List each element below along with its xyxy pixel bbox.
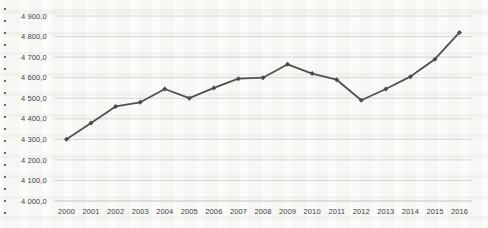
y-axis-tick-label: 4 900,0	[21, 12, 47, 21]
x-axis-tick-label: 2010	[304, 207, 321, 216]
line-chart: 4 900,04 800,04 700,04 600,04 500,04 400…	[0, 0, 488, 228]
x-axis-tick-label: 2011	[328, 207, 345, 216]
x-axis-tick-label: 2005	[181, 207, 198, 216]
x-axis-tick-label: 2013	[377, 207, 394, 216]
x-axis-tick-label: 2003	[132, 207, 149, 216]
line-chart-figure: 4 900,04 800,04 700,04 600,04 500,04 400…	[0, 0, 488, 228]
data-point-marker	[187, 96, 192, 101]
scanned-document-page: 4 900,04 800,04 700,04 600,04 500,04 400…	[0, 0, 488, 228]
x-axis-tick-label: 2004	[156, 207, 173, 216]
x-axis-tick-label: 2002	[107, 207, 124, 216]
x-axis-tick-label: 2008	[254, 207, 271, 216]
y-axis-tick-label: 4 300,0	[21, 135, 47, 144]
x-axis-tick-label: 2009	[279, 207, 296, 216]
y-axis-tick-label: 4 000,0	[21, 197, 47, 206]
y-axis-tick-label: 4 500,0	[21, 94, 47, 103]
x-axis-tick-label: 2014	[402, 207, 419, 216]
x-axis-tick-label: 2006	[205, 207, 222, 216]
y-axis-tick-label: 4 400,0	[21, 114, 47, 123]
x-axis-tick-label: 2001	[83, 207, 100, 216]
y-axis-tick-label: 4 100,0	[21, 176, 47, 185]
x-axis-tick-label: 2016	[451, 207, 468, 216]
data-point-marker	[211, 85, 216, 90]
x-axis-tick-label: 2015	[426, 207, 443, 216]
x-axis-tick-label: 2007	[230, 207, 247, 216]
data-series-line	[67, 32, 460, 139]
data-point-marker	[310, 71, 315, 76]
x-axis-tick-label: 2000	[58, 207, 75, 216]
x-axis-tick-label: 2012	[353, 207, 370, 216]
data-point-marker	[236, 76, 241, 81]
y-axis-tick-label: 4 200,0	[21, 156, 47, 165]
y-axis-tick-label: 4 600,0	[21, 73, 47, 82]
y-axis-tick-label: 4 700,0	[21, 53, 47, 62]
y-axis-tick-label: 4 800,0	[21, 32, 47, 41]
